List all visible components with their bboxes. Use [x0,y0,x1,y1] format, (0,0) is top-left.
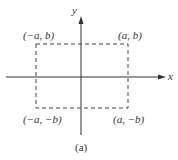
y-axis-arrow-icon [79,16,84,24]
y-axis [79,16,84,135]
x-axis [6,75,166,80]
dashed-rectangle [36,44,128,108]
x-axis-arrow-icon [158,75,166,80]
corner-label-bottom-right: (a, −b) [113,114,144,125]
diagram-canvas [0,0,178,160]
y-axis-label: y [72,5,77,16]
x-axis-label: x [168,71,173,82]
corner-label-bottom-left: (−a, −b) [23,114,62,125]
corner-label-top-left: (−a, b) [23,30,54,41]
corner-label-top-right: (a, b) [118,30,142,41]
caption: (a) [75,142,87,153]
